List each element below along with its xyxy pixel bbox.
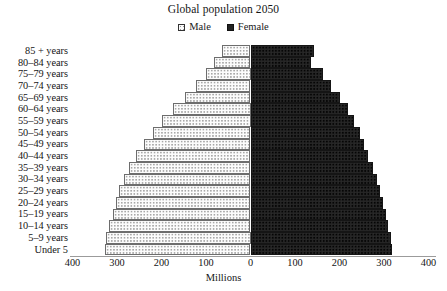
bar-female — [251, 103, 348, 115]
pyramid-row: 30–34 years — [0, 174, 447, 186]
pyramid-row: 65–69 years — [0, 92, 447, 104]
bar-male — [119, 185, 250, 197]
x-axis-ticks: 4003002001000100200300400 — [0, 258, 447, 272]
pyramid-row: 85 + years — [0, 45, 447, 57]
age-group-label: 35–39 years — [0, 163, 68, 173]
bar-male — [113, 209, 251, 221]
age-group-label: 25–29 years — [0, 186, 68, 196]
plot-area: 85 + years80–84 years75–79 years70–74 ye… — [0, 0, 447, 291]
age-group-label: Under 5 — [0, 244, 68, 254]
bar-male — [162, 115, 251, 127]
population-pyramid-chart: Global population 2050 Male Female 85 + … — [0, 0, 447, 291]
bar-female — [251, 244, 393, 256]
pyramid-row: 10–14 years — [0, 220, 447, 232]
x-tick-label: 300 — [109, 258, 124, 268]
age-group-label: 60–64 years — [0, 104, 68, 114]
age-group-label: 70–74 years — [0, 81, 68, 91]
bar-male — [136, 150, 251, 162]
x-axis-label: Millions — [0, 272, 447, 283]
bar-male — [206, 68, 251, 80]
bar-female — [251, 209, 387, 221]
age-group-label: 5–9 years — [0, 233, 68, 243]
age-group-label: 10–14 years — [0, 221, 68, 231]
age-group-label: 55–59 years — [0, 116, 68, 126]
bar-female — [251, 220, 389, 232]
x-tick-label: 0 — [248, 258, 253, 268]
pyramid-row: 45–49 years — [0, 139, 447, 151]
pyramid-row: 60–64 years — [0, 103, 447, 115]
age-group-label: 75–79 years — [0, 69, 68, 79]
bar-female — [251, 162, 373, 174]
pyramid-row: 15–19 years — [0, 209, 447, 221]
bar-male — [109, 220, 251, 232]
pyramid-row: 20–24 years — [0, 197, 447, 209]
pyramid-row: 50–54 years — [0, 127, 447, 139]
bar-male — [222, 45, 251, 57]
pyramid-row: 40–44 years — [0, 150, 447, 162]
bar-rows: 85 + years80–84 years75–79 years70–74 ye… — [0, 45, 447, 255]
bar-female — [251, 150, 369, 162]
age-group-label: 40–44 years — [0, 151, 68, 161]
x-tick-label: 100 — [287, 258, 302, 268]
bar-male — [124, 174, 251, 186]
bar-male — [185, 92, 251, 104]
bar-female — [251, 232, 391, 244]
bar-female — [251, 45, 314, 57]
bar-female — [251, 92, 340, 104]
x-tick-label: 400 — [65, 258, 80, 268]
pyramid-row: 35–39 years — [0, 162, 447, 174]
bar-female — [251, 115, 354, 127]
age-group-label: 15–19 years — [0, 209, 68, 219]
bar-female — [251, 68, 324, 80]
bar-male — [116, 197, 250, 209]
bar-female — [251, 185, 381, 197]
age-group-label: 30–34 years — [0, 174, 68, 184]
bar-male — [106, 232, 251, 244]
pyramid-row: 25–29 years — [0, 185, 447, 197]
age-group-label: 80–84 years — [0, 57, 68, 67]
x-tick-label: 400 — [421, 258, 436, 268]
bar-female — [251, 127, 360, 139]
bar-female — [251, 80, 332, 92]
age-group-label: 45–49 years — [0, 139, 68, 149]
bar-male — [129, 162, 250, 174]
bar-male — [153, 127, 251, 139]
age-group-label: 65–69 years — [0, 92, 68, 102]
pyramid-row: 75–79 years — [0, 68, 447, 80]
pyramid-row: 80–84 years — [0, 57, 447, 69]
age-group-label: 50–54 years — [0, 128, 68, 138]
pyramid-row: 70–74 years — [0, 80, 447, 92]
bar-female — [251, 139, 364, 151]
bar-male — [144, 139, 251, 151]
x-tick-label: 200 — [332, 258, 347, 268]
x-tick-label: 100 — [198, 258, 213, 268]
bar-male — [173, 103, 251, 115]
bar-female — [251, 174, 378, 186]
bar-male — [214, 57, 250, 69]
x-tick-label: 300 — [376, 258, 391, 268]
bar-female — [251, 57, 311, 69]
pyramid-row: Under 5 — [0, 244, 447, 256]
bar-male — [105, 244, 251, 256]
bar-male — [196, 80, 250, 92]
bar-female — [251, 197, 384, 209]
pyramid-row: 55–59 years — [0, 115, 447, 127]
age-group-label: 20–24 years — [0, 198, 68, 208]
age-group-label: 85 + years — [0, 46, 68, 56]
x-tick-label: 200 — [154, 258, 169, 268]
pyramid-row: 5–9 years — [0, 232, 447, 244]
